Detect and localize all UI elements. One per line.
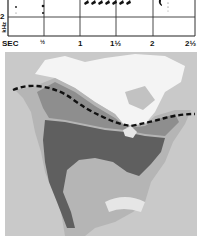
x-tick-half: ½	[40, 39, 45, 45]
x-tick-2: 2	[150, 39, 154, 48]
y-tick-2: 2	[0, 13, 4, 21]
sonogram-chart: 2 kHz SEC ½ 1 1½ 2 2½	[0, 0, 202, 48]
x-tick-2-half: 2½	[185, 39, 196, 48]
x-tick-1: 1	[78, 39, 82, 48]
sonogram-plot	[0, 0, 202, 48]
x-tick-1-half: 1½	[110, 39, 121, 48]
y-axis-unit: kHz	[0, 22, 8, 33]
north-america-map	[5, 52, 197, 236]
x-axis-label: SEC	[2, 39, 18, 48]
range-map	[5, 52, 197, 236]
